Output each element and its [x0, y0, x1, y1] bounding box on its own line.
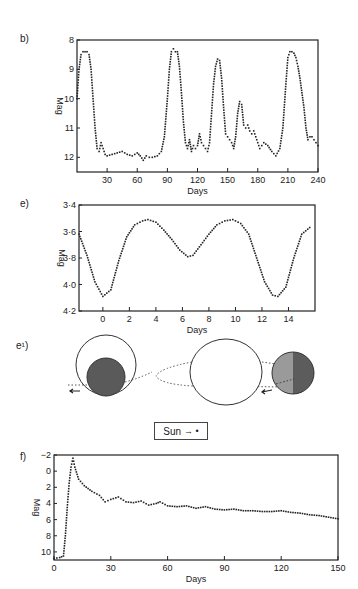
sun-arrow-icon: → •	[184, 426, 199, 436]
motion-arrow-left-icon	[70, 389, 80, 393]
motion-arrow-right-icon	[262, 390, 272, 395]
large-bright-star	[190, 339, 262, 405]
orbit-diagram	[0, 0, 358, 589]
right-configuration	[156, 339, 314, 405]
small-dark-star	[87, 358, 125, 396]
left-configuration	[68, 335, 152, 396]
sun-label: Sun	[163, 426, 181, 437]
orbit-left-dots-right	[125, 372, 152, 382]
sun-direction-legend: Sun → •	[154, 422, 208, 440]
